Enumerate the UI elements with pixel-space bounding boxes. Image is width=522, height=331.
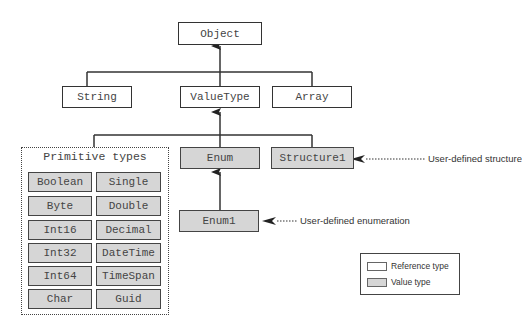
node-char: Char: [28, 289, 92, 309]
node-byte: Byte: [28, 196, 92, 216]
node-guid: Guid: [96, 289, 161, 309]
annotation-user-defined-enumeration: User-defined enumeration: [300, 215, 410, 226]
legend: Reference type Value type: [360, 253, 460, 295]
node-double: Double: [96, 196, 161, 216]
legend-swatch-value: [367, 278, 387, 287]
node-enum: Enum: [180, 147, 260, 169]
node-object: Object: [178, 22, 262, 45]
node-single: Single: [96, 172, 161, 192]
node-timespan: TimeSpan: [96, 266, 161, 286]
node-valuetype: ValueType: [180, 86, 260, 108]
legend-label-reference: Reference type: [391, 261, 449, 271]
annotation-user-defined-structure: User-defined structure: [428, 153, 522, 164]
legend-label-value: Value type: [391, 277, 431, 287]
node-array: Array: [272, 86, 352, 108]
primitive-types-title: Primitive types: [21, 150, 169, 163]
node-int32: Int32: [28, 243, 92, 263]
node-int64: Int64: [28, 266, 92, 286]
legend-swatch-reference: [367, 262, 387, 271]
node-boolean: Boolean: [28, 172, 92, 192]
node-string: String: [62, 86, 132, 108]
node-enum1: Enum1: [179, 210, 259, 232]
node-decimal: Decimal: [96, 220, 161, 240]
node-structure1: Structure1: [271, 147, 354, 169]
node-datetime: DateTime: [96, 243, 161, 263]
node-int16: Int16: [28, 220, 92, 240]
